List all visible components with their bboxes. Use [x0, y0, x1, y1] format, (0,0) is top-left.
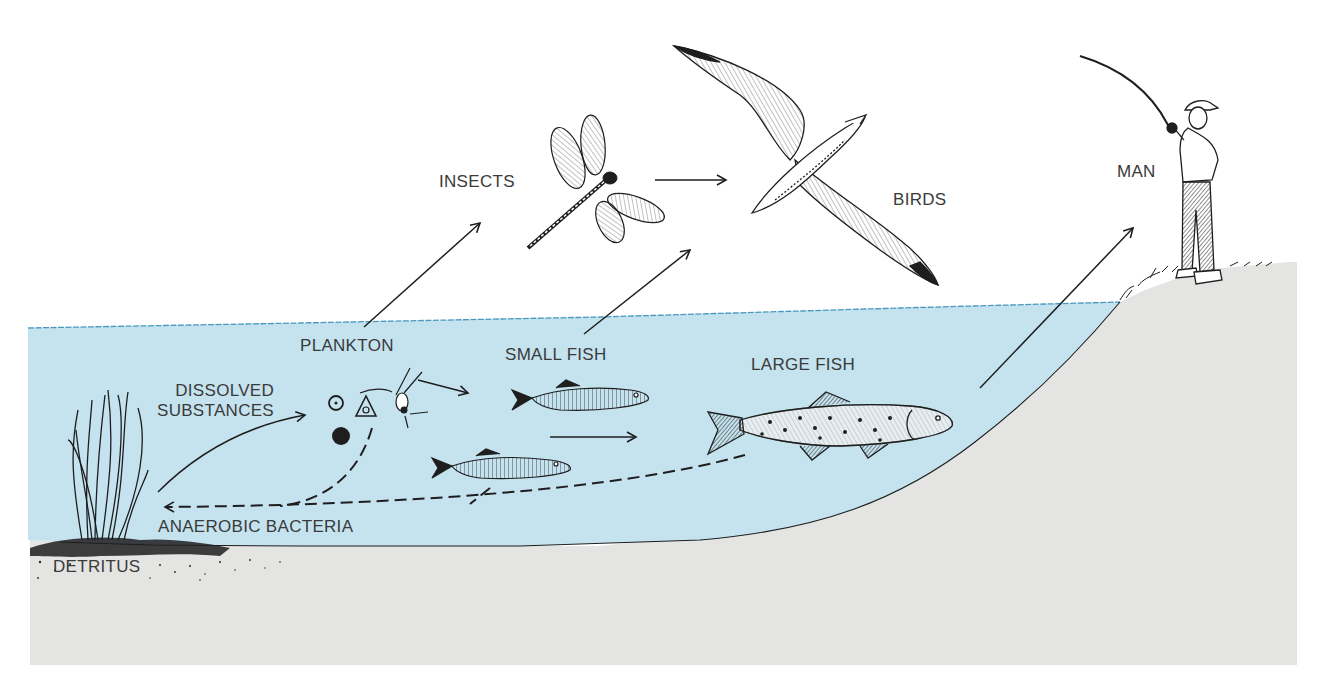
- label-anaerobic-bacteria: ANAEROBIC BACTERIA: [158, 517, 353, 537]
- label-dissolved-substances: DISSOLVED SUBSTANCES: [144, 381, 274, 421]
- dragonfly-icon: [528, 114, 668, 248]
- label-small-fish: SMALL FISH: [505, 345, 607, 365]
- label-insects: INSECTS: [439, 172, 515, 192]
- label-large-fish: LARGE FISH: [751, 355, 855, 375]
- label-man: MAN: [1117, 162, 1156, 182]
- label-birds: BIRDS: [893, 190, 946, 210]
- arrow-plankton-to-insects: [364, 223, 480, 327]
- label-detritus: DETRITUS: [53, 557, 140, 577]
- albatross-icon: [674, 46, 938, 285]
- food-chain-diagram: [0, 0, 1317, 694]
- label-plankton: PLANKTON: [300, 336, 394, 356]
